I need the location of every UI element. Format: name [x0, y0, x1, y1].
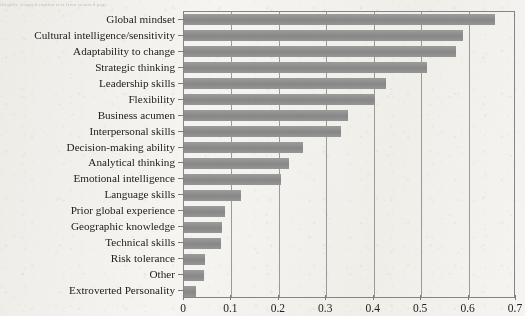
x-tick-mark: [183, 295, 184, 300]
category-label: Strategic thinking: [95, 60, 175, 74]
bar: [184, 110, 348, 121]
bar: [184, 30, 463, 41]
bar: [184, 238, 221, 249]
x-tick-label: 0.1: [223, 300, 237, 316]
category-label: Geographic knowledge: [71, 219, 175, 233]
bar: [184, 94, 375, 105]
x-tick-label: 0.4: [366, 300, 380, 316]
category-label: Technical skills: [105, 235, 175, 249]
x-tick-mark: [278, 295, 279, 300]
bar-chart: Global mindsetCultural intelligence/sens…: [0, 9, 525, 316]
x-tick-mark: [515, 295, 516, 300]
bar: [184, 142, 303, 153]
x-tick-label: 0.5: [413, 300, 427, 316]
x-tick-mark: [325, 295, 326, 300]
bar: [184, 126, 341, 137]
category-label: Interpersonal skills: [90, 124, 175, 138]
category-label: Analytical thinking: [88, 155, 175, 169]
x-tick-label: 0.7: [508, 300, 522, 316]
bar: [184, 206, 225, 217]
bar: [184, 254, 205, 265]
category-label: Prior global experience: [71, 203, 175, 217]
bar: [184, 62, 427, 73]
bar: [184, 270, 204, 281]
x-tick-label: 0: [180, 300, 186, 316]
bar: [184, 190, 241, 201]
category-label: Risk tolerance: [111, 251, 175, 265]
category-label: Leadership skills: [99, 76, 175, 90]
gridline: [469, 12, 470, 297]
bar: [184, 174, 281, 185]
category-label: Adaptability to change: [73, 44, 175, 58]
category-label: Language skills: [104, 187, 175, 201]
cropped-caption-text: illegible cropped caption text from scan…: [0, 0, 525, 9]
bar: [184, 286, 196, 297]
category-label: Extroverted Personality: [69, 283, 175, 297]
category-label: Decision-making ability: [67, 140, 175, 154]
x-tick-mark: [373, 295, 374, 300]
x-tick-label: 0.6: [460, 300, 474, 316]
category-label: Cultural intelligence/sensitivity: [34, 28, 175, 42]
category-label: Emotional intelligence: [73, 171, 175, 185]
bar: [184, 14, 495, 25]
bar: [184, 46, 456, 57]
category-axis-labels: Global mindsetCultural intelligence/sens…: [0, 11, 179, 298]
x-axis-tick-labels: 00.10.20.30.40.50.60.7: [0, 300, 525, 316]
category-label: Business acumen: [98, 108, 175, 122]
bar: [184, 78, 386, 89]
category-label: Other: [150, 267, 175, 281]
category-label: Global mindset: [106, 12, 175, 26]
x-tick-label: 0.3: [318, 300, 332, 316]
x-tick-mark: [468, 295, 469, 300]
bar: [184, 222, 222, 233]
bar: [184, 158, 289, 169]
x-tick-mark: [230, 295, 231, 300]
category-label: Flexibility: [128, 92, 175, 106]
x-tick-label: 0.2: [271, 300, 285, 316]
plot-area: [183, 11, 515, 298]
x-tick-mark: [420, 295, 421, 300]
